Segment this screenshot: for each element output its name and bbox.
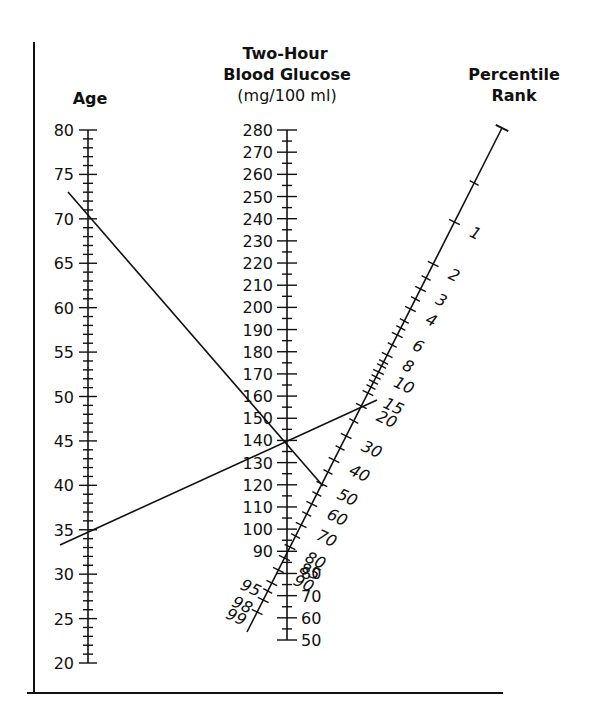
age-header: Age <box>73 89 108 108</box>
glucose-tick-label: 140 <box>242 431 273 450</box>
age-tick-label: 55 <box>54 343 74 362</box>
age-tick-label: 25 <box>54 610 74 629</box>
glucose-tick-label: 200 <box>242 298 273 317</box>
percentile-tick <box>341 433 352 438</box>
percentile-tick <box>392 332 403 337</box>
glucose-tick-label: 270 <box>242 143 273 162</box>
percentile-tick <box>449 219 460 224</box>
glucose-tick-label: 150 <box>242 409 273 428</box>
percentile-tick-label: 70 <box>313 525 339 551</box>
percentile-tick-label: 60 <box>324 504 350 530</box>
glucose-tick-label: 130 <box>242 454 273 473</box>
glucose-tick-label: 210 <box>242 276 273 295</box>
percentile-tick <box>266 580 277 585</box>
glucose-tick-label: 60 <box>301 609 321 628</box>
glucose-header-line1: Two-Hour <box>242 44 327 63</box>
glucose-tick-label: 260 <box>242 165 273 184</box>
nomogram: Age Two-Hour Blood Glucose (mg/100 ml) P… <box>0 0 590 717</box>
glucose-units: (mg/100 ml) <box>237 86 336 105</box>
age-tick-label: 45 <box>54 432 74 451</box>
glucose-tick-label: 110 <box>242 498 273 517</box>
percentile-tick-label: 10 <box>391 372 417 398</box>
percentile-tick <box>415 286 426 291</box>
glucose-tick-label: 240 <box>242 210 273 229</box>
percentile-tick <box>252 609 263 614</box>
percentile-tick <box>279 555 290 560</box>
glucose-header-line2: Blood Glucose <box>223 65 351 84</box>
glucose-tick-label: 190 <box>242 321 273 340</box>
percentile-tick-label: 1 <box>467 222 484 244</box>
percentile-tick <box>296 522 307 527</box>
glucose-tick-label: 160 <box>242 387 273 406</box>
percentile-tick <box>363 390 374 395</box>
age-tick-label: 80 <box>54 121 74 140</box>
percentile-tick-label: 2 <box>446 264 463 286</box>
percentile-tick-label: 3 <box>433 289 450 311</box>
age-tick-label: 75 <box>54 165 74 184</box>
percentile-tick-label: 30 <box>358 436 384 462</box>
age-axis: 80757065605550454035302520 <box>54 121 97 673</box>
age-tick-label: 30 <box>54 565 74 584</box>
glucose-tick-label: 230 <box>242 232 273 251</box>
percentile-tick-label: 40 <box>346 460 372 486</box>
percentile-tick <box>258 597 269 602</box>
age-tick-label: 20 <box>54 654 74 673</box>
glucose-tick-label: 120 <box>242 476 273 495</box>
glucose-tick-label: 180 <box>242 343 273 362</box>
percentile-tick-label: 4 <box>423 309 440 331</box>
percentile-tick <box>405 306 416 311</box>
age-tick-label: 40 <box>54 476 74 495</box>
age-tick-label: 50 <box>54 388 74 407</box>
glucose-tick-label: 170 <box>242 365 273 384</box>
percentile-tick <box>306 501 317 506</box>
glucose-tick-label: 280 <box>242 121 273 140</box>
percentile-tick <box>382 352 393 357</box>
age-tick-label: 35 <box>54 521 74 540</box>
percentile-tick-label: 6 <box>410 335 427 357</box>
glucose-tick-label: 220 <box>242 254 273 273</box>
percentile-tick <box>373 369 384 374</box>
glucose-tick-label: 250 <box>242 188 273 207</box>
percentile-axis-cap <box>496 125 508 131</box>
percentile-header-line1: Percentile <box>468 65 560 84</box>
glucose-tick-label: 90 <box>253 542 273 561</box>
age-tick-label: 65 <box>54 254 74 273</box>
percentile-tick <box>428 261 439 266</box>
percentile-header-line2: Rank <box>491 86 537 105</box>
age-tick-label: 70 <box>54 210 74 229</box>
glucose-tick-label: 100 <box>242 520 273 539</box>
age-tick-label: 60 <box>54 299 74 318</box>
percentile-axis-line <box>247 128 502 632</box>
percentile-tick <box>329 457 340 462</box>
percentile-tick <box>273 567 284 572</box>
glucose-tick-label: 50 <box>301 631 321 650</box>
